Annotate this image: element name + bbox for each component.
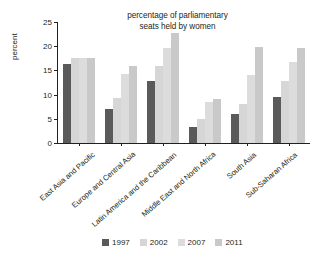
x-axis-category-label: East Asia and Pacific bbox=[38, 150, 97, 203]
bar bbox=[231, 114, 239, 143]
legend-item[interactable]: 2011 bbox=[215, 238, 242, 247]
chart-title-line-1: percentage of parliamentary bbox=[95, 11, 260, 22]
legend-swatch bbox=[140, 239, 147, 246]
bar bbox=[255, 47, 263, 143]
x-axis-tick-mark bbox=[247, 143, 248, 146]
x-axis-category-label: Latin America and the Caribbean bbox=[90, 150, 178, 228]
legend-swatch bbox=[215, 239, 222, 246]
x-axis-tick-mark bbox=[163, 143, 164, 146]
bar bbox=[197, 119, 205, 143]
bar bbox=[273, 97, 281, 143]
chart-legend: 1997200220072011 bbox=[102, 238, 243, 247]
bar bbox=[163, 48, 171, 143]
y-axis-title: percent bbox=[10, 33, 19, 60]
y-axis-tick-mark bbox=[54, 70, 57, 71]
bar-group bbox=[58, 22, 100, 143]
x-axis-category-label: Middle East and North Africa bbox=[140, 150, 217, 219]
y-axis-tick-label: 25 bbox=[43, 18, 52, 27]
bar bbox=[121, 74, 129, 143]
y-axis-tick-label: 20 bbox=[43, 42, 52, 51]
bar bbox=[289, 62, 297, 143]
y-axis-tick-label: 10 bbox=[43, 90, 52, 99]
bar bbox=[113, 98, 121, 143]
bar-chart: percentage of parliamentary seats held b… bbox=[0, 0, 329, 271]
bar-group bbox=[100, 22, 142, 143]
bar bbox=[105, 109, 113, 143]
legend-label: 2011 bbox=[225, 238, 242, 247]
y-axis-tick-mark bbox=[54, 22, 57, 23]
bar bbox=[205, 102, 213, 143]
bar-groups bbox=[58, 22, 310, 143]
legend-label: 1997 bbox=[112, 238, 130, 247]
y-axis-tick-label: 0 bbox=[48, 139, 52, 148]
x-axis-category-label: South Asia bbox=[225, 150, 258, 180]
bar-group bbox=[268, 22, 310, 143]
x-axis-category-label: Sub-Saharan Africa bbox=[244, 150, 299, 199]
bar bbox=[247, 75, 255, 143]
x-axis-tick-mark bbox=[289, 143, 290, 146]
legend-swatch bbox=[178, 239, 185, 246]
plot-area: 0510152025 bbox=[57, 22, 310, 144]
y-axis-tick-mark bbox=[54, 95, 57, 96]
bar bbox=[79, 58, 87, 143]
legend-item[interactable]: 1997 bbox=[102, 238, 130, 247]
bar bbox=[189, 127, 197, 143]
legend-label: 2007 bbox=[188, 238, 206, 247]
legend-label: 2002 bbox=[150, 238, 168, 247]
x-axis-tick-mark bbox=[79, 143, 80, 146]
bar bbox=[87, 58, 95, 143]
y-axis-tick-label: 5 bbox=[48, 114, 52, 123]
bar-group bbox=[184, 22, 226, 143]
bar-group bbox=[142, 22, 184, 143]
x-axis-tick-mark bbox=[121, 143, 122, 146]
bar-group bbox=[226, 22, 268, 143]
y-axis-tick-mark bbox=[54, 46, 57, 47]
y-axis-tick-mark bbox=[54, 119, 57, 120]
bar bbox=[297, 48, 305, 143]
bar bbox=[71, 58, 79, 143]
bar bbox=[129, 66, 137, 143]
bar bbox=[171, 33, 179, 143]
y-axis-tick-label: 15 bbox=[43, 66, 52, 75]
x-axis-line bbox=[57, 143, 310, 144]
bar bbox=[147, 81, 155, 143]
bar bbox=[155, 66, 163, 143]
legend-item[interactable]: 2002 bbox=[140, 238, 168, 247]
y-axis-tick-mark bbox=[54, 143, 57, 144]
bar bbox=[239, 104, 247, 143]
legend-swatch bbox=[102, 239, 109, 246]
x-axis-tick-mark bbox=[205, 143, 206, 146]
bar bbox=[213, 99, 221, 143]
bar bbox=[63, 64, 71, 143]
bar bbox=[281, 81, 289, 143]
legend-item[interactable]: 2007 bbox=[178, 238, 206, 247]
x-axis-category-label: Europe and Central Asia bbox=[70, 150, 137, 210]
